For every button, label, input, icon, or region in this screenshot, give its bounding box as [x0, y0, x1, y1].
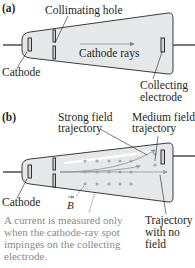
- cathode-label-b: Cathode: [2, 196, 40, 208]
- collecting-electrode: [161, 38, 165, 52]
- cathode-b: [28, 165, 32, 178]
- collimator-upper: [53, 30, 56, 42]
- strong-field-label-2: trajectory: [58, 122, 102, 135]
- cathode: [28, 38, 32, 51]
- panel-b-tag: (b): [2, 111, 16, 124]
- cathode-ray-tube-diagram: (a) Cathode rays Collimating hole Cathod…: [0, 0, 195, 268]
- panel-a-tag: (a): [2, 2, 16, 15]
- medium-field-label-2: trajectory: [132, 122, 176, 135]
- collimator-lower-b: [53, 174, 56, 187]
- panel-a: (a) Cathode rays Collimating hole Cathod…: [2, 2, 195, 103]
- collimator-upper-b: [53, 158, 56, 170]
- cathode-label: Cathode: [2, 66, 40, 78]
- collecting-label-2: electrode: [140, 91, 182, 103]
- tube: [22, 13, 173, 74]
- panel-b: (b) Strong field trajectory Medium fie: [2, 111, 195, 262]
- collimator-lower: [53, 46, 56, 59]
- leader-note: [89, 192, 95, 213]
- note-line-3: impinges on the collecting: [4, 238, 121, 250]
- collecting-electrode-b: [161, 150, 165, 164]
- note-line-1: A current is measured only: [4, 214, 123, 226]
- note-line-2: when the cathode-ray spot: [4, 226, 120, 238]
- note-line-4: electrode.: [4, 250, 47, 262]
- b-field-label: B: [67, 199, 74, 211]
- nofield-label-2: with no: [145, 226, 180, 238]
- cathode-rays-label: Cathode rays: [79, 47, 140, 60]
- nofield-label-3: field: [145, 238, 166, 250]
- collimating-hole-label: Collimating hole: [45, 4, 123, 17]
